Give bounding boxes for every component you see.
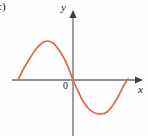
graph-plot xyxy=(0,0,148,136)
part-label: c) xyxy=(0,1,6,12)
y-axis-label: y xyxy=(61,2,66,13)
figure-container: c) y x 0 xyxy=(0,0,148,136)
x-axis-label: x xyxy=(138,84,143,95)
y-axis-arrowhead xyxy=(69,10,76,18)
origin-label: 0 xyxy=(63,81,68,91)
